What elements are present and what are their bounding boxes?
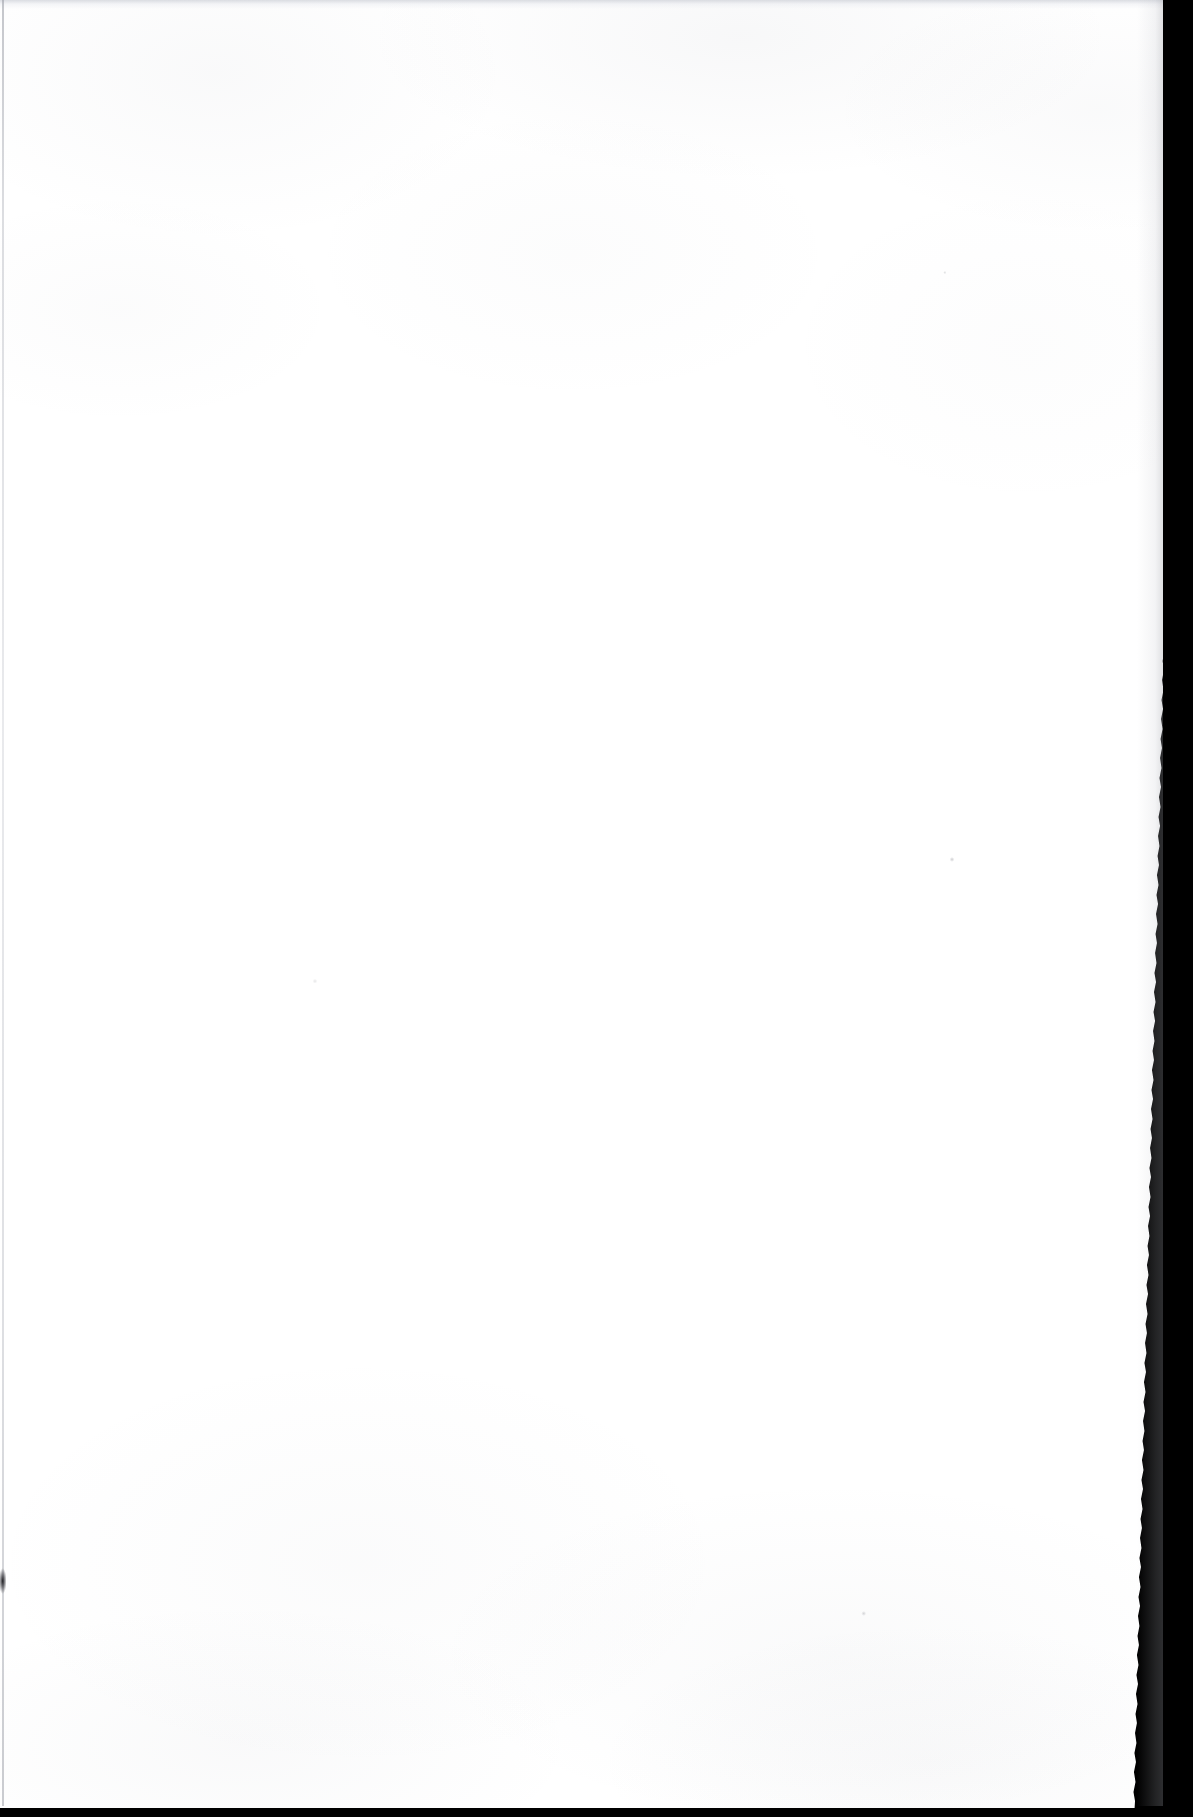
left-gutter-line [2,0,4,1806]
paper-sheet [0,0,1193,1817]
scanned-page-frame [0,0,1193,1817]
top-edge-band [0,0,1193,9]
paper-texture-overlay [0,0,1193,1817]
left-margin-smudge [0,1568,6,1594]
